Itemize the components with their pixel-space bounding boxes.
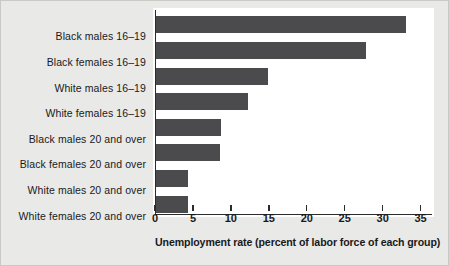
x-axis-tick-label: 30 [377, 212, 389, 224]
bar [156, 68, 268, 85]
category-label: White males 20 and over [0, 182, 146, 199]
bar [156, 170, 188, 187]
bar [156, 119, 221, 136]
x-axis-title: Unemployment rate (percent of labor forc… [155, 236, 437, 248]
category-label: Black females 20 and over [0, 156, 146, 173]
category-label: Black males 20 and over [0, 131, 146, 148]
x-axis-tick-label: 25 [339, 212, 351, 224]
bar [156, 93, 248, 110]
x-axis-tick [382, 205, 383, 211]
plot-area [155, 10, 432, 215]
x-axis-tick [306, 205, 307, 211]
category-label: White females 16–19 [0, 105, 146, 122]
x-axis-tick-label: 0 [152, 212, 158, 224]
x-axis-tick [230, 205, 231, 211]
x-axis-tick-label: 20 [301, 212, 313, 224]
x-axis-tick-label: 10 [225, 212, 237, 224]
category-label-column: Black males 16–19Black females 16–19Whit… [0, 22, 150, 205]
x-axis-tick [268, 205, 269, 211]
category-label: White females 20 and over [0, 208, 146, 225]
bar [156, 42, 366, 59]
category-label: White males 16–19 [0, 80, 146, 97]
bar [156, 16, 406, 33]
bar [156, 144, 220, 161]
x-axis-tick [344, 205, 345, 211]
x-axis-tick [154, 205, 155, 211]
x-axis-tick-label: 5 [190, 212, 196, 224]
category-label: Black males 16–19 [0, 28, 146, 45]
bar [156, 196, 188, 213]
unemployment-bar-chart-figure: Black males 16–19Black females 16–19Whit… [0, 0, 449, 266]
x-axis-tick-label: 35 [414, 212, 426, 224]
x-axis-tick [192, 205, 193, 211]
x-axis-tick [420, 205, 421, 211]
x-axis-tick-label: 15 [263, 212, 275, 224]
category-label: Black females 16–19 [0, 54, 146, 71]
